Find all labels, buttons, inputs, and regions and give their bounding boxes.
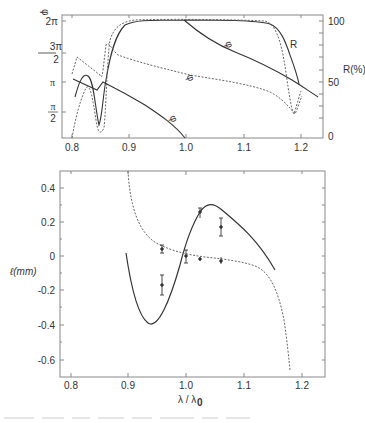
svg-text:π: π (50, 101, 55, 112)
top-y-tick-pi: π (50, 77, 55, 88)
curve-solid (126, 205, 275, 324)
bottom-y-tick-0.2: 0.2 (41, 217, 55, 228)
svg-text:2: 2 (50, 113, 56, 124)
top-x-tick-1.0: 1.0 (179, 142, 193, 153)
bottom-y-ticks (60, 188, 325, 360)
top-y-right-tick-100: 100 (328, 16, 345, 27)
label-phi-3: φ (168, 114, 181, 124)
bottom-chart-frame (60, 171, 325, 377)
bottom-chart: 0.4 0.2 0 -0.2 -0.4 -0.6 ℓ(mm) 0.8 0.9 1… (9, 171, 325, 408)
data-point (160, 275, 164, 295)
top-x-tick-1.1: 1.1 (237, 142, 251, 153)
bottom-y-tick-neg0.6: -0.6 (38, 355, 56, 366)
svg-text:0: 0 (197, 397, 203, 408)
label-R: R (290, 39, 297, 50)
data-point (199, 257, 202, 261)
top-y-right-tick-0: 0 (328, 131, 334, 142)
top-y-right-ticks (319, 21, 323, 118)
data-point (220, 257, 223, 264)
bottom-y-tick-neg0.4: -0.4 (38, 320, 56, 331)
top-y-left-ticks (62, 21, 66, 112)
bottom-x-tick-1.0: 1.0 (179, 380, 193, 391)
bottom-y-label: ℓ(mm) (9, 266, 37, 277)
bottom-curves (126, 171, 290, 370)
top-y-tick-pi-2: π 2 (48, 101, 58, 124)
bottom-y-tick-neg0.2: -0.2 (38, 285, 56, 296)
bottom-x-tick-0.8: 0.8 (64, 380, 78, 391)
bottom-x-tick-1.2: 1.2 (295, 380, 309, 391)
bottom-x-tick-0.9: 0.9 (121, 380, 135, 391)
top-x-tick-0.8: 0.8 (65, 142, 79, 153)
bottom-x-ticks (71, 171, 302, 377)
data-point (184, 250, 188, 263)
figure-caption-faint (4, 408, 364, 414)
top-y-left-label: φ (40, 9, 51, 16)
data-points (160, 208, 223, 295)
top-y-right-tick-50: 50 (328, 77, 340, 88)
bottom-x-label: λ / λ 0 (178, 394, 203, 408)
bottom-y-tick-0: 0 (49, 251, 55, 262)
curve-phi-solid-right (184, 20, 318, 97)
curve-phi-solid-left (73, 79, 185, 138)
bottom-x-tick-1.1: 1.1 (237, 380, 251, 391)
label-phi-2: φ (185, 73, 198, 83)
svg-text:3π: 3π (50, 41, 63, 52)
svg-text:2: 2 (53, 54, 59, 65)
top-y-tick-2pi: 2π (46, 16, 59, 27)
data-point (219, 218, 223, 236)
curve-dotted (128, 171, 290, 370)
top-chart: φ 2π 3π 2 π π 2 100 50 0 R(%) (38, 9, 365, 153)
top-y-right-label: R(%) (343, 64, 365, 75)
top-x-tick-1.2: 1.2 (294, 142, 308, 153)
bottom-y-tick-0.4: 0.4 (41, 183, 55, 194)
curve-R-solid (75, 20, 299, 125)
top-x-tick-0.9: 0.9 (122, 142, 136, 153)
top-y-tick-3pi-2: 3π 2 (38, 41, 62, 65)
svg-text:λ / λ: λ / λ (178, 394, 196, 405)
label-phi-1: φ (223, 39, 236, 49)
